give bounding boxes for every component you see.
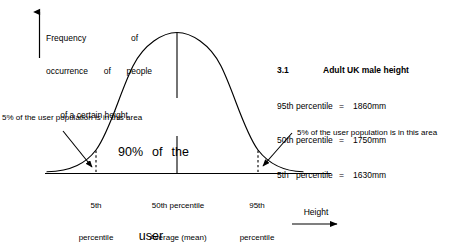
stats-row-name: 95th percentile: [277, 101, 339, 113]
stats-row-value: 1630mm: [353, 170, 413, 182]
stats-row: 5th percentile = 1630mm: [277, 170, 445, 182]
stats-row-value: 1860mm: [353, 101, 413, 113]
tick-label-95th-percentile: 95th percentile: [224, 180, 290, 242]
statistics-block: 3.1 Adult UK male height 95th percentile…: [277, 42, 445, 204]
stats-row: 95th percentile = 1860mm: [277, 101, 445, 113]
figure-title: Adult UK male height: [323, 65, 409, 77]
tick-label-50th-percentile: 50th percentile Average (mean): [132, 180, 224, 242]
y-axis-caption-line2-b: of: [104, 66, 111, 77]
figure-number: 3.1: [277, 65, 323, 77]
y-axis-caption-line2-c: people: [126, 66, 152, 77]
tick-label-5th-percentile: 5th percentile: [62, 180, 130, 242]
left-tail-annotation: 5% of the user population is in this are…: [2, 113, 86, 124]
y-axis-caption-line1-a: Frequency: [46, 33, 86, 44]
tick-label-95th-line1: 95th: [224, 201, 290, 212]
tick-label-5th-line1: 5th: [62, 201, 130, 212]
center-label-part1: 90%: [118, 142, 143, 163]
x-axis-caption: Height: [290, 207, 342, 217]
tick-label-50th-line1: 50th percentile: [132, 201, 224, 212]
stats-row-equals: =: [339, 101, 353, 113]
tick-label-5th-line2: percentile: [62, 233, 130, 242]
right-tail-annotation: 5% of the user population is in this are…: [297, 128, 387, 139]
y-axis-caption-line2-a: occurrence: [46, 66, 88, 77]
normal-distribution-diagram: Frequency of occurrence of people of a c…: [0, 0, 449, 242]
center-label-part2: of: [152, 142, 162, 163]
y-axis-caption-line1-b: of: [131, 33, 138, 44]
tick-label-95th-line2: percentile: [224, 233, 290, 242]
tick-label-50th-line2: Average (mean): [132, 233, 224, 242]
center-label-part3: the: [171, 142, 188, 163]
stats-row-equals: =: [339, 170, 353, 182]
